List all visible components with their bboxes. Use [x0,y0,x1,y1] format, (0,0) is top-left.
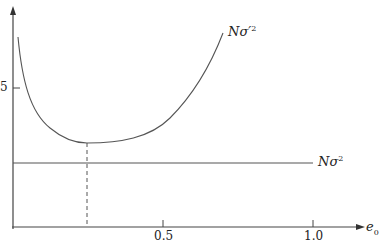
series-nsigmaprime2-curve [18,33,223,143]
x-tick-label-0.5: 0.5 [154,229,173,243]
line-label-nsigma2: Nσ2 [318,154,343,169]
y-tick-label-5: 5 [0,80,8,94]
y-axis-arrow-icon [10,6,16,15]
x-tick-label-1.0: 1.0 [304,229,323,243]
curve-label-nsigmaprime2: Nσ′2 [228,24,256,39]
x-axis-label: e0 [366,219,379,237]
x-axis-arrow-icon [356,224,365,230]
